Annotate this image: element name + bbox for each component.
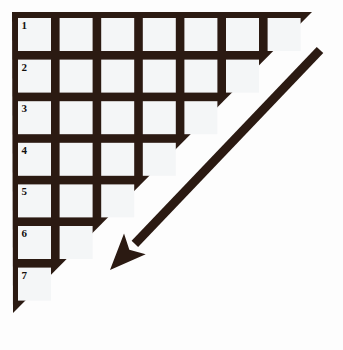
grid-cell (184, 101, 217, 134)
grid-cell (226, 18, 259, 51)
grid-cell (101, 184, 134, 217)
grid-cell (143, 18, 176, 51)
diagram-canvas: 1234567 (0, 0, 343, 350)
grid-cell (60, 18, 93, 51)
row-label: 5 (22, 185, 28, 197)
grid-cell (60, 143, 93, 176)
grid-cell (60, 101, 93, 134)
grid-cell (101, 18, 134, 51)
row-label: 4 (22, 144, 28, 156)
row-label: 3 (22, 102, 28, 114)
grid-cell (101, 101, 134, 134)
grid-cell (184, 60, 217, 93)
grid-cell (60, 226, 93, 259)
grid-cell (60, 184, 93, 217)
row-label: 6 (22, 227, 28, 239)
grid-cell (143, 143, 176, 176)
grid-cell (60, 60, 93, 93)
staircase-triangle-figure: 1234567 (0, 0, 343, 350)
grid-cell (184, 18, 217, 51)
grid-cell (226, 60, 259, 93)
grid-cell (101, 60, 134, 93)
grid-cell (143, 60, 176, 93)
grid-cell (268, 18, 301, 51)
grid-cell (143, 101, 176, 134)
row-label: 2 (22, 61, 28, 73)
row-label: 7 (22, 269, 28, 281)
grid-cell (101, 143, 134, 176)
row-label: 1 (22, 19, 28, 31)
